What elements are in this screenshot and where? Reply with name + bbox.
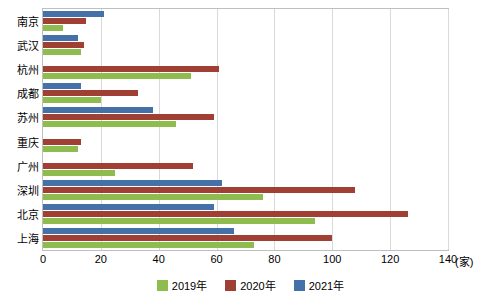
- category-label: 北京: [17, 206, 39, 222]
- bar-2019年-北京: [43, 218, 315, 224]
- category-label: 广州: [17, 158, 39, 174]
- bar-group: [43, 154, 448, 178]
- bar-2021年-苏州: [43, 107, 153, 113]
- bar-group: [43, 202, 448, 226]
- bar-2020年-深圳: [43, 187, 355, 193]
- bar-chart: 南京武汉杭州成都苏州重庆广州深圳北京上海 020406080100120140 …: [0, 0, 501, 305]
- bar-group: [43, 33, 448, 57]
- x-tick-label: 80: [259, 253, 289, 265]
- bar-2019年-成都: [43, 97, 101, 103]
- bar-2019年-重庆: [43, 146, 78, 152]
- bar-2021年-北京: [43, 204, 214, 210]
- legend-swatch: [157, 280, 168, 291]
- legend-label: 2021年: [309, 277, 344, 293]
- category-label: 重庆: [17, 134, 39, 150]
- bar-2019年-南京: [43, 25, 63, 31]
- category-label: 上海: [17, 230, 39, 246]
- bar-2020年-广州: [43, 163, 193, 169]
- legend-swatch: [225, 280, 236, 291]
- bar-group: [43, 130, 448, 154]
- x-tick-label: 20: [86, 253, 116, 265]
- category-label: 南京: [17, 13, 39, 29]
- bar-2020年-武汉: [43, 42, 84, 48]
- bar-2019年-上海: [43, 242, 254, 248]
- bar-2020年-成都: [43, 90, 138, 96]
- legend-item[interactable]: 2020年: [225, 277, 275, 293]
- bar-2021年-南京: [43, 11, 104, 17]
- x-tick-label: 120: [375, 253, 405, 265]
- x-tick-label: 40: [144, 253, 174, 265]
- category-label: 武汉: [17, 37, 39, 53]
- category-label: 苏州: [17, 109, 39, 125]
- bar-2019年-杭州: [43, 73, 191, 79]
- bar-group: [43, 57, 448, 81]
- category-label: 深圳: [17, 182, 39, 198]
- x-tick-label: 100: [317, 253, 347, 265]
- bar-group: [43, 105, 448, 129]
- category-label: 杭州: [17, 61, 39, 77]
- legend-label: 2020年: [240, 277, 275, 293]
- gridline: [448, 9, 449, 250]
- bar-2021年-武汉: [43, 35, 78, 41]
- bar-2019年-苏州: [43, 121, 176, 127]
- bar-group: [43, 81, 448, 105]
- bar-2019年-武汉: [43, 49, 81, 55]
- bar-group: [43, 9, 448, 33]
- legend-label: 2019年: [172, 277, 207, 293]
- x-tick-label: 60: [202, 253, 232, 265]
- legend-item[interactable]: 2021年: [294, 277, 344, 293]
- bar-2020年-南京: [43, 18, 86, 24]
- bar-2021年-上海: [43, 228, 234, 234]
- bar-2020年-北京: [43, 211, 408, 217]
- bar-2020年-重庆: [43, 139, 81, 145]
- x-tick-label: 0: [28, 253, 58, 265]
- legend-item[interactable]: 2019年: [157, 277, 207, 293]
- chart-legend: 2019年2020年2021年: [0, 277, 501, 293]
- bar-2019年-广州: [43, 170, 115, 176]
- bar-2021年-深圳: [43, 180, 222, 186]
- axis-unit-label: (家): [455, 253, 473, 269]
- category-label: 成都: [17, 85, 39, 101]
- plot-area: [42, 8, 449, 251]
- bar-group: [43, 178, 448, 202]
- bar-2021年-成都: [43, 83, 81, 89]
- bar-2020年-苏州: [43, 114, 214, 120]
- legend-swatch: [294, 280, 305, 291]
- bar-2020年-杭州: [43, 66, 219, 72]
- bar-2019年-深圳: [43, 194, 263, 200]
- bar-2020年-上海: [43, 235, 332, 241]
- bar-group: [43, 226, 448, 250]
